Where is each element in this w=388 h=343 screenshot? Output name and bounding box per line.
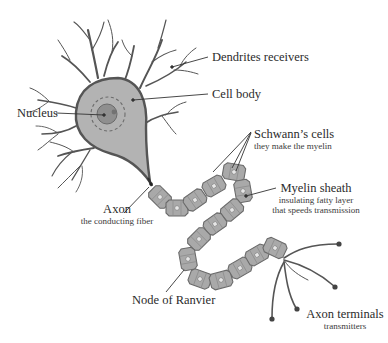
label-myelin-title: Myelin sheath [266, 181, 366, 196]
label-schwann: Schwann’s cells they make the myelin [254, 127, 334, 151]
label-terminals-title: Axon terminals [302, 307, 388, 322]
cell-body-shape [76, 78, 150, 182]
label-axon-title: Axon [72, 202, 162, 217]
label-schwann-title: Schwann’s cells [254, 127, 334, 142]
neuron-illustration [0, 0, 388, 343]
label-myelin-subtitle-1: insulating fatty layer [266, 195, 366, 205]
label-myelin-subtitle-2: that speeds transmission [266, 205, 366, 215]
label-axon-subtitle: the conducting fiber [72, 216, 162, 226]
label-axon: Axon the conducting fiber [72, 202, 162, 226]
nucleolus [112, 110, 117, 115]
label-node-of-ranvier: Node of Ranvier [132, 293, 215, 308]
label-schwann-subtitle: they make the myelin [254, 141, 334, 151]
label-myelin: Myelin sheath insulating fatty layer tha… [266, 181, 366, 215]
label-cell-body: Cell body [212, 87, 261, 102]
label-axon-terminals: Axon terminals transmitters [302, 307, 388, 331]
label-terminals-subtitle: transmitters [302, 321, 388, 331]
label-dendrites: Dendrites receivers [212, 50, 309, 65]
neuron-diagram: Dendrites receivers Cell body Nucleus Sc… [0, 0, 388, 343]
label-nucleus: Nucleus [17, 106, 58, 121]
